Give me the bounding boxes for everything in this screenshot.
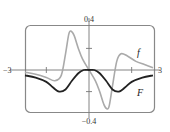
plot-frame <box>26 26 155 113</box>
y-bottom-label: −0.4 <box>82 117 97 126</box>
x-right-label: 3 <box>158 66 162 75</box>
y-top-label: 0.4 <box>84 15 94 24</box>
chart: 0.4 −0.4 −3 3 f F <box>0 0 170 132</box>
F-curve-label: F <box>136 87 144 98</box>
f-curve-label: f <box>137 47 141 58</box>
x-left-label: −3 <box>3 66 12 75</box>
